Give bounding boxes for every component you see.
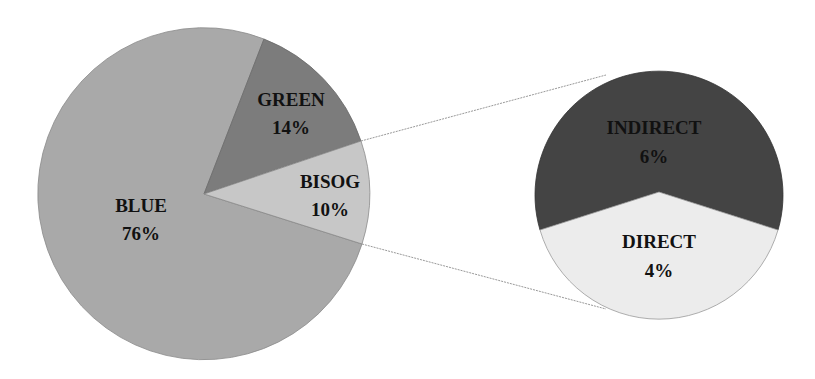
label-direct-pct: 4% xyxy=(645,260,674,281)
label-blue-name: BLUE xyxy=(115,195,167,216)
label-bisog-name: BISOG xyxy=(300,171,360,192)
label-indirect-pct: 6% xyxy=(640,146,669,167)
label-bisog-pct: 10% xyxy=(311,199,349,220)
pie-of-pie-chart: GREEN 14% BISOG 10% BLUE 76% INDIRECT 6%… xyxy=(0,0,815,379)
label-direct-name: DIRECT xyxy=(622,231,696,252)
label-green-pct: 14% xyxy=(272,117,310,138)
label-green-name: GREEN xyxy=(257,89,325,110)
label-indirect-name: INDIRECT xyxy=(606,117,701,138)
label-blue-pct: 76% xyxy=(122,223,160,244)
